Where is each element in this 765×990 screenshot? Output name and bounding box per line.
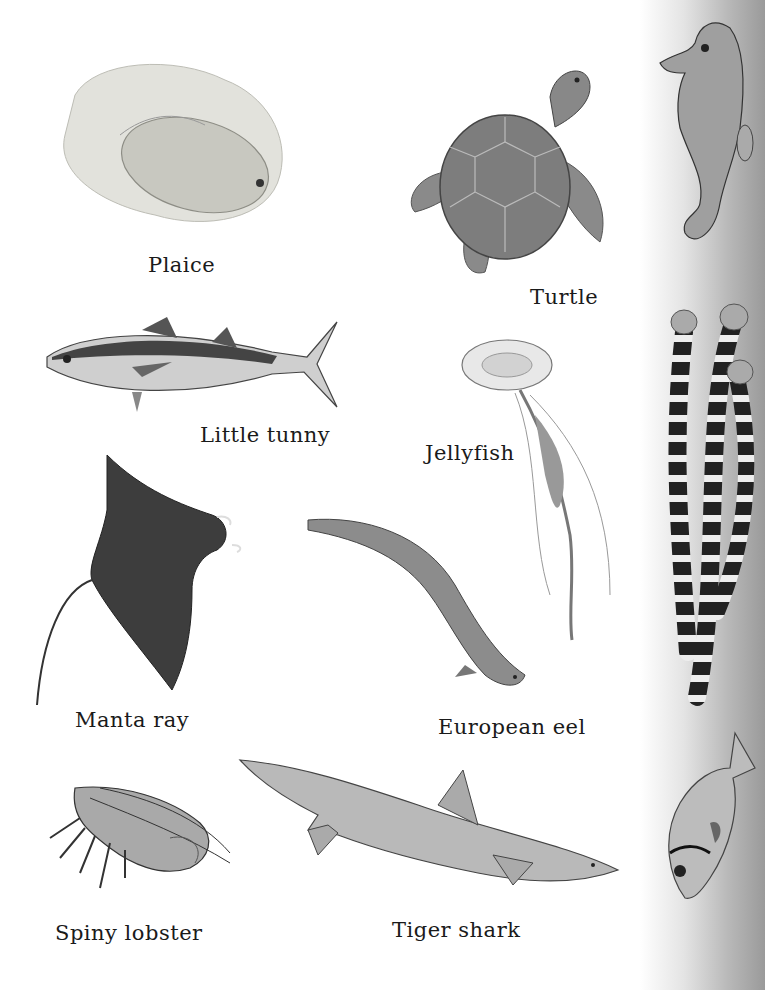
little-tunny-illustration bbox=[42, 312, 342, 422]
little-tunny-label: Little tunny bbox=[200, 423, 330, 447]
tiger-shark-label: Tiger shark bbox=[392, 918, 520, 942]
striped-pipefish-illustration bbox=[662, 302, 762, 707]
turtle-illustration bbox=[405, 62, 610, 292]
manta-ray-label: Manta ray bbox=[75, 708, 189, 732]
spiny-lobster-illustration bbox=[40, 778, 235, 893]
plaice-illustration bbox=[55, 55, 290, 230]
reef-fish-illustration bbox=[655, 728, 765, 908]
european-eel-illustration bbox=[305, 515, 530, 690]
turtle-label: Turtle bbox=[530, 285, 598, 309]
tiger-shark-illustration bbox=[238, 755, 623, 890]
plaice-label: Plaice bbox=[148, 253, 215, 277]
spiny-lobster-label: Spiny lobster bbox=[55, 921, 203, 945]
jellyfish-label: Jellyfish bbox=[425, 441, 514, 465]
european-eel-label: European eel bbox=[438, 715, 586, 739]
seahorse-illustration bbox=[655, 8, 755, 263]
manta-ray-illustration bbox=[32, 450, 247, 710]
